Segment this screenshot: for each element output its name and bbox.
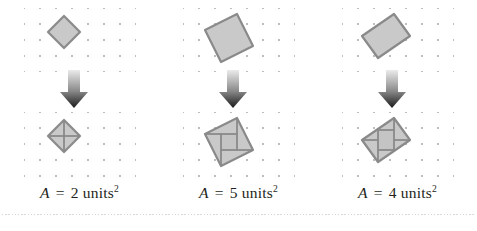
panel-2-area-label: A = 5 units2 bbox=[159, 184, 318, 202]
panel-2-bottom-grid-area bbox=[159, 108, 318, 178]
figure-canvas: A = 2 units2 bbox=[0, 0, 477, 231]
arrow-body bbox=[60, 70, 88, 108]
down-arrow-icon bbox=[159, 68, 318, 110]
equals-sign: = bbox=[54, 184, 67, 201]
equals-sign: = bbox=[213, 184, 226, 201]
panel-3-top-grid-area bbox=[318, 4, 477, 70]
panel-2-top-grid-area bbox=[159, 4, 318, 70]
panel-2-bottom-shape bbox=[159, 108, 318, 178]
panel-1-top-shape bbox=[0, 4, 159, 70]
rotated-square-outline bbox=[48, 16, 80, 48]
area-unit-exponent: 2 bbox=[114, 183, 119, 194]
panel-2: A = 5 units2 bbox=[159, 0, 318, 231]
area-variable: A bbox=[40, 184, 50, 201]
area-value: 2 bbox=[71, 184, 79, 201]
area-unit: units bbox=[401, 184, 432, 201]
bottom-divider-rule bbox=[2, 214, 475, 215]
area-variable: A bbox=[358, 184, 368, 201]
panel-3-bottom-grid-area bbox=[318, 108, 477, 178]
rotated-rectangle-outline bbox=[362, 14, 410, 58]
panel-1-area-label: A = 2 units2 bbox=[0, 184, 159, 202]
panel-3: A = 4 units2 bbox=[318, 0, 477, 231]
area-value: 5 bbox=[230, 184, 238, 201]
equals-sign: = bbox=[372, 184, 385, 201]
inner-unit-square bbox=[221, 134, 237, 150]
area-value: 4 bbox=[389, 184, 397, 201]
arrow-body bbox=[378, 70, 406, 108]
panel-2-top-shape bbox=[159, 4, 318, 70]
inner-unit-square bbox=[378, 130, 394, 150]
area-unit-exponent: 2 bbox=[432, 183, 437, 194]
area-variable: A bbox=[199, 184, 209, 201]
down-arrow-icon bbox=[0, 68, 159, 110]
panel-3-arrow bbox=[318, 68, 477, 110]
panel-1: A = 2 units2 bbox=[0, 0, 159, 231]
area-unit: units bbox=[83, 184, 114, 201]
rotated-square-outline bbox=[205, 14, 253, 62]
panel-1-bottom-grid-area bbox=[0, 108, 159, 178]
area-unit-exponent: 2 bbox=[273, 183, 278, 194]
panel-3-bottom-shape bbox=[318, 108, 477, 178]
panel-2-arrow bbox=[159, 68, 318, 110]
panel-3-top-shape bbox=[318, 4, 477, 70]
area-unit: units bbox=[242, 184, 273, 201]
arrow-body bbox=[219, 70, 247, 108]
panel-1-top-grid-area bbox=[0, 4, 159, 70]
panel-3-area-label: A = 4 units2 bbox=[318, 184, 477, 202]
down-arrow-icon bbox=[318, 68, 477, 110]
panel-1-bottom-shape bbox=[0, 108, 159, 178]
panel-1-arrow bbox=[0, 68, 159, 110]
